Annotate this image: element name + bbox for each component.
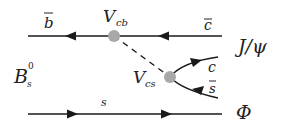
vertex-vcs bbox=[164, 71, 176, 83]
svg-text:b: b bbox=[44, 14, 54, 32]
svg-text:s: s bbox=[209, 81, 216, 96]
svg-text:c: c bbox=[208, 59, 216, 75]
svg-text:s: s bbox=[27, 79, 32, 89]
arrow-icon bbox=[190, 58, 202, 67]
svg-text:Φ: Φ bbox=[236, 101, 252, 121]
svg-text:J/ψ: J/ψ bbox=[234, 35, 268, 57]
label-vcs: V cs bbox=[133, 67, 156, 89]
feynman-diagram: b V cb c J/ψ B s 0 V cs c s s Φ bbox=[0, 0, 289, 121]
label-bs0: B s 0 bbox=[13, 61, 34, 89]
label-jpsi: J/ψ bbox=[234, 35, 268, 57]
svg-text:s: s bbox=[101, 96, 107, 109]
svg-text:V: V bbox=[103, 6, 117, 26]
arrow-left-icon bbox=[65, 32, 76, 41]
svg-text:cb: cb bbox=[116, 17, 128, 28]
label-anti-b: b bbox=[44, 13, 54, 32]
label-phi: Φ bbox=[236, 101, 252, 121]
svg-text:B: B bbox=[13, 65, 28, 87]
label-s-spectator: s bbox=[101, 96, 107, 109]
svg-text:cs: cs bbox=[145, 78, 156, 89]
arrow-left-icon bbox=[158, 32, 169, 41]
label-c: c bbox=[208, 59, 216, 75]
label-vcb: V cb bbox=[103, 6, 128, 28]
label-anti-s: s bbox=[209, 81, 216, 96]
arrow-right-icon bbox=[161, 110, 172, 119]
svg-text:0: 0 bbox=[28, 61, 34, 71]
arrow-right-icon bbox=[67, 110, 78, 119]
vertex-vcb bbox=[108, 30, 120, 42]
label-anti-c: c bbox=[204, 17, 212, 33]
